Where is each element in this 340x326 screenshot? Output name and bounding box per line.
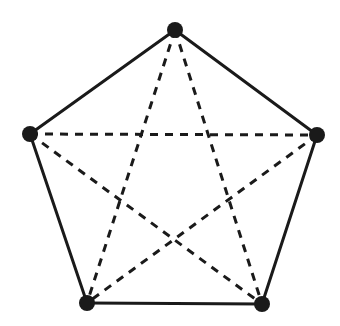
vertices [22,22,325,312]
solid-edge-bottom-right-bottom-left [87,303,262,304]
solid-edge-top-right [175,30,317,135]
solid-edge-left-top [30,30,175,134]
outer-pentagon-edges [30,30,317,304]
vertex-top [167,22,183,38]
dashed-edge-top-bottom-right [175,30,262,304]
vertex-bottom-right [254,296,270,312]
dashed-edge-top-bottom-left [87,30,175,303]
solid-edge-right-bottom-right [262,135,317,304]
dashed-edge-left-bottom-right [30,134,262,304]
vertex-bottom-left [79,295,95,311]
pentagon-graph-diagram [0,0,340,326]
dashed-edge-right-bottom-left [87,135,317,303]
solid-edge-bottom-left-left [30,134,87,303]
vertex-right [309,127,325,143]
dashed-edge-left-right [30,134,317,135]
vertex-left [22,126,38,142]
